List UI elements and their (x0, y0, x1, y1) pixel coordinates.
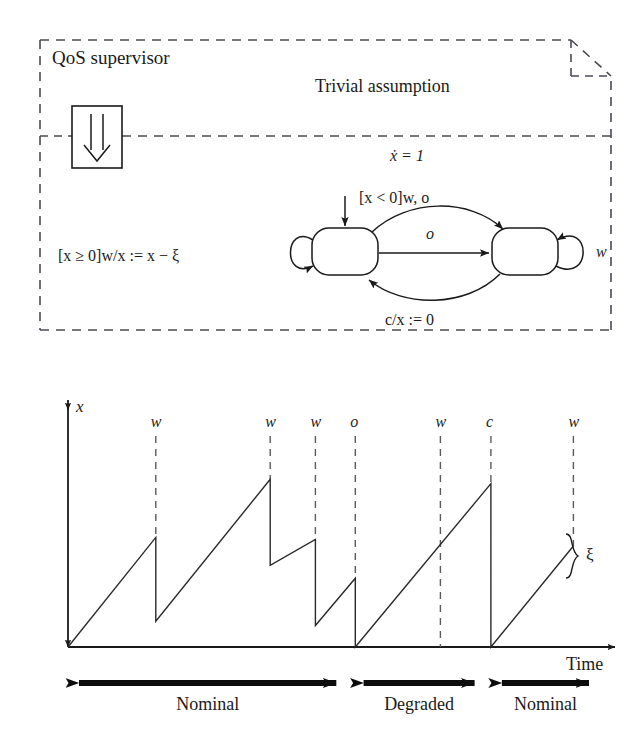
xi-brace (566, 534, 578, 578)
event-dashed-lines (156, 436, 574, 647)
xi-annotation-label: ξ (586, 546, 594, 563)
event-label-w-1: w (265, 414, 276, 430)
figure-canvas: QoS supervisor Trivial assumption ẋ = 1 … (0, 0, 644, 748)
sawtooth-series (68, 479, 573, 647)
event-label-c-5: c (486, 414, 493, 430)
y-axis-label: x (76, 398, 84, 415)
event-label-w-6: w (568, 414, 579, 430)
chart-layer (0, 0, 644, 748)
sawtooth-path (68, 479, 573, 647)
phase-label-0: Nominal (176, 695, 239, 713)
chart-axes (68, 408, 615, 647)
event-label-w-0: w (151, 414, 162, 430)
event-label-o-3: o (350, 414, 358, 430)
phase-label-2: Nominal (514, 695, 577, 713)
event-label-w-2: w (310, 414, 321, 430)
phase-label-1: Degraded (384, 695, 454, 713)
x-axis-label: Time (566, 655, 603, 673)
event-label-w-4: w (435, 414, 446, 430)
